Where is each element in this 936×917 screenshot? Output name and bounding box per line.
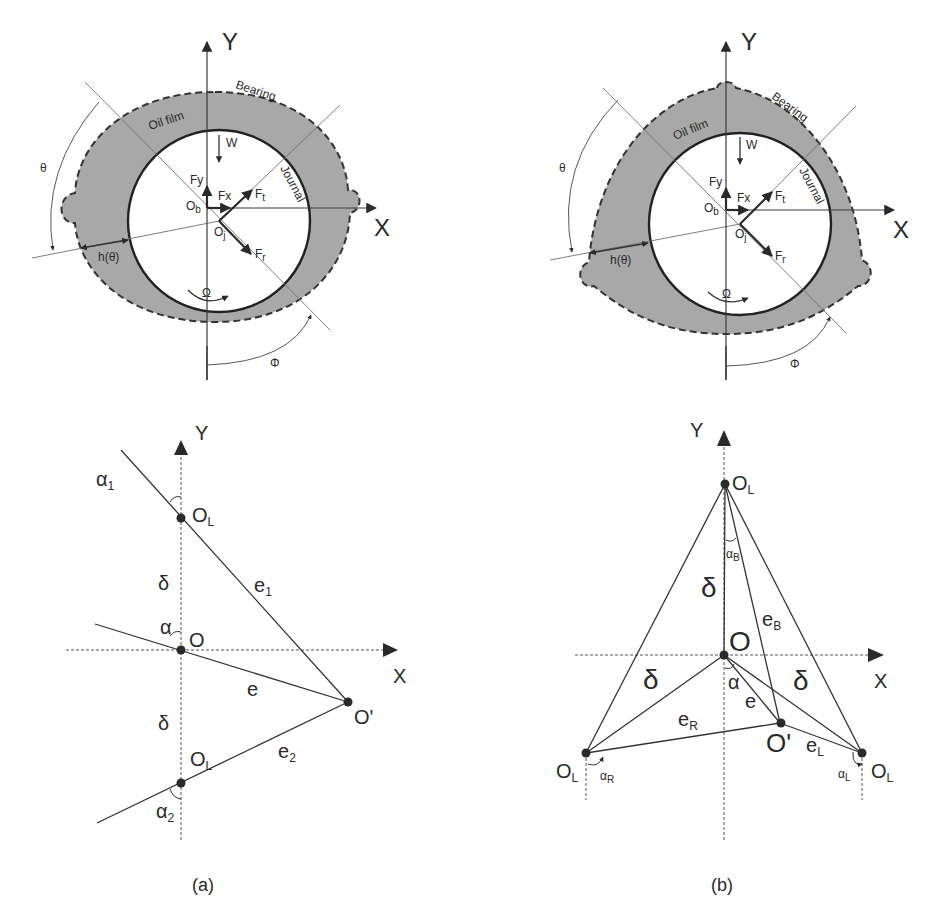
eccR-label: eR <box>678 708 698 733</box>
journal-center-label: O' <box>354 706 373 728</box>
y-axis-label: Y <box>222 28 238 55</box>
line-top-left <box>586 484 725 753</box>
alpha-label: α <box>160 616 172 638</box>
alphaR-label: αR <box>600 769 614 785</box>
load-label: W <box>226 136 238 150</box>
x-axis-label: X <box>874 670 887 692</box>
origin-point <box>720 651 729 660</box>
rotation-label: Ω <box>202 286 211 300</box>
x-axis-label: X <box>893 216 909 243</box>
fy-label: Fy <box>190 173 203 187</box>
ecc2-label: e2 <box>278 740 296 765</box>
fy-label: Fy <box>709 175 722 189</box>
figure-canvas: Y X W Fy Fx Ft Fr Ob Oj Bearing Oil film… <box>0 0 936 917</box>
lobe-center-bottom-label: OL <box>190 748 213 773</box>
lobe-center-top-point <box>177 514 186 523</box>
phi-label: Φ <box>790 357 800 371</box>
alphaB-arc <box>726 538 736 541</box>
ecc-label: e <box>247 678 258 700</box>
preload-left-label: δ <box>643 664 659 695</box>
lobe-center-top-label: OL <box>192 504 215 529</box>
y-axis-arrowhead <box>174 440 188 455</box>
line-e1 <box>121 450 348 702</box>
lobe-center-left-label: OL <box>556 760 579 785</box>
lobe-center-bottom-point <box>177 779 186 788</box>
x-axis-label: X <box>393 665 406 687</box>
preload-top-label: δ <box>158 572 169 594</box>
journal-center-point <box>777 719 786 728</box>
y-axis-arrowhead <box>717 430 731 446</box>
eccB-label: eB <box>762 608 781 633</box>
journal-center-point <box>344 698 353 707</box>
panel-a-caption: (a) <box>192 875 214 895</box>
panel-b-bearing-diagram: Y X W Fy Fx Ft Fr Ob Oj Bearing Oil film… <box>550 28 909 380</box>
lobe-center-left-point <box>582 749 591 758</box>
alpha1-label: α1 <box>96 468 115 493</box>
film-thickness-label: h(θ) <box>98 250 119 264</box>
alpha2-arc <box>170 789 181 799</box>
alpha-label: α <box>728 671 740 693</box>
alpha2-label: α2 <box>156 800 175 825</box>
theta-label: θ <box>40 161 47 175</box>
phi-label: Φ <box>270 356 280 370</box>
y-axis-label: Y <box>195 422 208 444</box>
lobe-center-top-label: OL <box>732 472 755 497</box>
x-axis-arrowhead <box>383 643 398 657</box>
lobe-center-top-point <box>721 480 730 489</box>
panel-a-geometry-diagram: Y X α1 OL δ e1 α O e O' δ OL e2 α2 <box>66 422 406 840</box>
origin-label: O <box>189 629 205 651</box>
journal-center-label: O' <box>766 728 791 758</box>
theta-label: θ <box>559 161 566 175</box>
panel-b-geometry-diagram: Y X OL αB δ eB O α δ δ e eR O' eL OL αR <box>556 419 894 840</box>
alphaB-label: αB <box>726 547 740 563</box>
line-e2 <box>97 702 348 823</box>
panel-a-bearing-diagram: Y X W Fy Fx Ft Fr Ob Oj Bearing Oil film… <box>32 28 390 380</box>
lobe-center-right-label: OL <box>871 760 894 785</box>
ecc-label: e <box>745 690 756 712</box>
alphaL-label: αL <box>838 767 851 783</box>
fx-label: Fx <box>737 191 750 205</box>
alphaR-arc <box>588 757 603 765</box>
x-axis-label: X <box>374 214 390 241</box>
lobe-center-right-point <box>858 749 867 758</box>
ecc1-label: e1 <box>254 574 272 599</box>
origin-label: O <box>729 626 751 657</box>
alpha1-arc <box>170 497 181 502</box>
line-top-right <box>725 484 862 753</box>
x-axis-arrowhead <box>868 648 884 662</box>
preload-bottom-label: δ <box>158 712 169 734</box>
line-e <box>95 624 348 702</box>
preload-right-label: δ <box>793 665 809 696</box>
y-axis-label: Y <box>690 419 703 441</box>
origin-point <box>177 646 186 655</box>
alpha-arc <box>170 632 181 637</box>
fx-label: Fx <box>218 189 231 203</box>
rotation-label: Ω <box>722 287 731 301</box>
load-label: W <box>746 138 758 152</box>
preload-top-label: δ <box>701 572 717 603</box>
y-axis-label: Y <box>741 28 757 55</box>
panel-b-caption: (b) <box>711 875 733 895</box>
film-thickness-label: h(θ) <box>610 253 631 267</box>
